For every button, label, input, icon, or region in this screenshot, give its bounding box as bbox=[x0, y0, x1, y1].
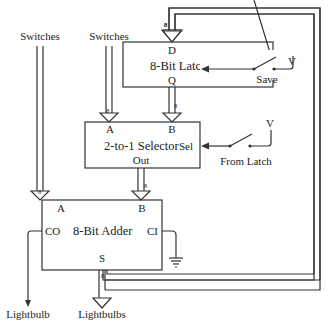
from-latch-label[interactable]: From Latch bbox=[220, 155, 272, 167]
switches-a-label: Switches bbox=[20, 30, 60, 42]
switches-b-label: Switches bbox=[89, 30, 129, 42]
bus-width-label: 8 bbox=[164, 21, 167, 28]
latch-voltage-label: V bbox=[288, 55, 296, 67]
bus-width-label: 8 bbox=[144, 182, 147, 189]
bus-width-label: 8 bbox=[38, 188, 41, 195]
lightbulb-label: Lightbulb bbox=[6, 308, 50, 320]
bus-width-label: 8 bbox=[106, 107, 109, 114]
selector-voltage-label: V bbox=[266, 117, 274, 129]
bus-width-label: 8 bbox=[174, 102, 177, 109]
lightbulbs-label: Lightbulbs bbox=[78, 308, 126, 320]
labels-layer: Switches Switches Save V From Latch V Li… bbox=[0, 0, 334, 328]
save-label[interactable]: Save bbox=[256, 73, 278, 85]
bus-width-label: 8 bbox=[101, 272, 104, 279]
